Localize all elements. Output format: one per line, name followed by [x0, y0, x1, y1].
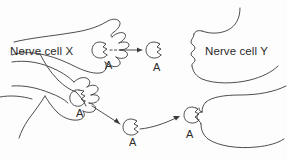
synapse-lower-curved-arrow [140, 116, 180, 129]
receptor-lower-postsynaptic-label: A [186, 128, 193, 140]
nerve-cell-x-axon-tail [0, 86, 68, 103]
nerve-cell-x-label: Nerve cell X [10, 45, 73, 57]
nerve-cell-x-lower-terminal [19, 78, 99, 138]
diagram-canvas: Nerve cell X Nerve cell Y A A A A A [0, 0, 287, 161]
receptor-upper-presynaptic-shape [92, 42, 107, 58]
receptor-lower-middle-shape [123, 119, 138, 135]
nerve-cell-y-label: Nerve cell Y [205, 45, 268, 57]
synapse-lower-transmission-arrow [92, 106, 120, 124]
synapse-diagram [0, 0, 287, 161]
receptor-lower-presynaptic-shape [70, 90, 85, 106]
receptor-lower-middle-label: A [129, 136, 136, 148]
receptor-lower-presynaptic-label: A [76, 107, 83, 119]
receptor-upper-presynaptic-label: A [105, 59, 112, 71]
receptor-upper-postsynaptic-label: A [153, 61, 160, 73]
receptor-lower-postsynaptic-shape [184, 107, 199, 123]
receptor-upper-postsynaptic-shape [146, 42, 161, 58]
nerve-cell-y-lower-body [197, 86, 286, 148]
